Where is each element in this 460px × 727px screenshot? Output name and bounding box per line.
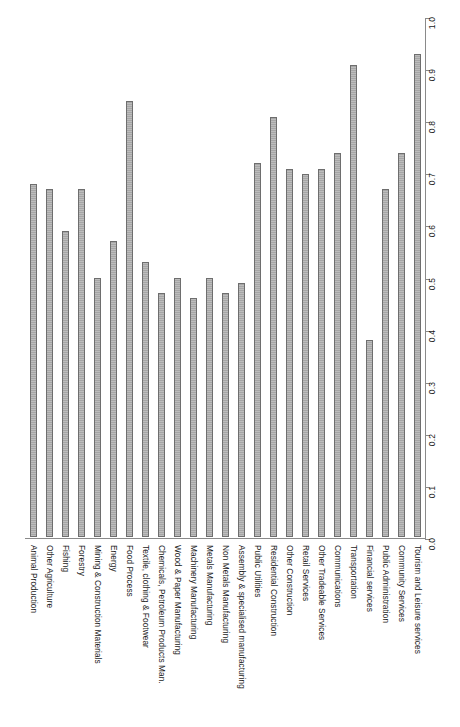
bar[interactable]	[382, 189, 389, 537]
axis-tick-label: 0.1	[427, 486, 437, 498]
bar-chart: 0.00.10.20.30.40.50.60.70.80.91.0 Animal…	[0, 0, 460, 727]
bar[interactable]	[46, 189, 53, 537]
bar[interactable]	[222, 293, 229, 537]
bar-slot	[361, 18, 377, 537]
axis-tick-label: 0.5	[427, 277, 437, 289]
axis-tick-label: 0.4	[427, 329, 437, 341]
bar[interactable]	[270, 117, 277, 537]
category-label: Machinery Manufacturing	[189, 545, 197, 639]
bar[interactable]	[206, 278, 213, 538]
bar[interactable]	[110, 241, 117, 537]
bar-slot	[89, 18, 105, 537]
bar[interactable]	[334, 153, 341, 537]
bar-slot	[345, 18, 361, 537]
category-label: Public Utilities	[253, 545, 261, 597]
category-label: Metals Manufacturing	[205, 545, 213, 625]
bar[interactable]	[94, 278, 101, 538]
axis-tick-label: 0.3	[427, 381, 437, 393]
bar-slot	[41, 18, 57, 537]
bar[interactable]	[414, 54, 421, 537]
bar[interactable]	[30, 184, 37, 537]
bar[interactable]	[398, 153, 405, 537]
bar-slot	[409, 18, 425, 537]
bar-slot	[281, 18, 297, 537]
axis-tick-label: 0.9	[427, 69, 437, 81]
bar-slot	[329, 18, 345, 537]
bar[interactable]	[174, 278, 181, 538]
bar-slot	[249, 18, 265, 537]
bar-slot	[265, 18, 281, 537]
category-label: Textile, clothing & Footwear	[141, 545, 149, 648]
category-label: Non Metals Manufacturing	[221, 545, 229, 643]
category-label: Assembly & specialised manufacturing	[237, 545, 245, 689]
category-label: Fishing	[61, 545, 69, 572]
bar-slot	[169, 18, 185, 537]
category-label: Transportation	[349, 545, 357, 599]
bar[interactable]	[350, 65, 357, 537]
category-label: Other Tradeable Services	[317, 545, 325, 640]
bar-slot	[137, 18, 153, 537]
axis-tick-label: 0.6	[427, 225, 437, 237]
category-labels-layer: Animal ProductionOther AgricultureFishin…	[25, 541, 425, 727]
bar-slot	[313, 18, 329, 537]
axis-tick-label: 0.7	[427, 173, 437, 185]
bar-slot	[105, 18, 121, 537]
category-label: Animal Production	[29, 545, 37, 613]
bar-slot	[121, 18, 137, 537]
category-label: Other Construction	[285, 545, 293, 616]
category-label: Public Administration	[381, 545, 389, 623]
category-label: Residential Construction	[269, 545, 277, 636]
bar-slot	[185, 18, 201, 537]
category-label: Food Process	[125, 545, 133, 597]
axis-tick-label: 1.0	[427, 17, 437, 29]
bars-layer	[25, 18, 425, 537]
bar[interactable]	[190, 298, 197, 537]
axis-tick-label: 0.0	[427, 538, 437, 550]
bar[interactable]	[318, 169, 325, 537]
bar[interactable]	[158, 293, 165, 537]
bar[interactable]	[254, 163, 261, 537]
bar-slot	[57, 18, 73, 537]
category-baseline-axis	[25, 538, 425, 539]
category-label: Forestry	[77, 545, 85, 576]
bar[interactable]	[62, 231, 69, 537]
bar-slot	[297, 18, 313, 537]
bar[interactable]	[286, 169, 293, 537]
axis-tick-label: 0.8	[427, 121, 437, 133]
category-label: Other Agriculture	[45, 545, 53, 608]
category-label: Energy	[109, 545, 117, 572]
bar-slot	[73, 18, 89, 537]
category-label: Retail Services	[301, 545, 309, 601]
axis-tick-label: 0.2	[427, 434, 437, 446]
bar[interactable]	[366, 340, 373, 537]
category-label: Mining & Construction Materials	[93, 545, 101, 664]
bar[interactable]	[238, 283, 245, 537]
category-label: Community Services	[397, 545, 405, 622]
category-label: Wood & Paper Manufacturing	[173, 545, 181, 655]
bar-slot	[233, 18, 249, 537]
category-label: Communications	[333, 545, 341, 608]
category-label: Financial services	[365, 545, 373, 612]
bar-slot	[201, 18, 217, 537]
plot-area	[25, 18, 425, 539]
bar-slot	[217, 18, 233, 537]
category-label: Tourism and Leisure services	[413, 545, 421, 654]
bar-slot	[25, 18, 41, 537]
bar[interactable]	[126, 101, 133, 537]
bar-slot	[153, 18, 169, 537]
bar[interactable]	[142, 262, 149, 537]
bar-slot	[377, 18, 393, 537]
bar-slot	[393, 18, 409, 537]
category-label: Chemicals, Petroleum Products Man.	[157, 545, 165, 684]
bar[interactable]	[78, 189, 85, 537]
bar[interactable]	[302, 174, 309, 537]
